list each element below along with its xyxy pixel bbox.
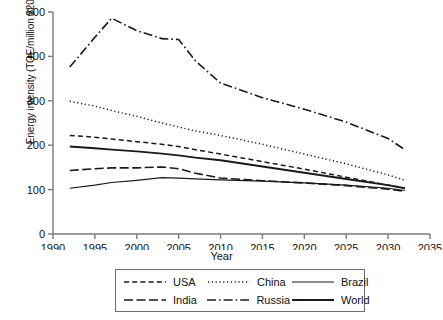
svg-text:300: 300: [27, 95, 45, 107]
legend-label-usa: USA: [168, 276, 196, 288]
legend-item-world[interactable]: World: [290, 294, 364, 306]
legend-item-usa[interactable]: USA: [116, 276, 206, 288]
svg-text:2025: 2025: [334, 242, 358, 250]
svg-text:400: 400: [27, 50, 45, 62]
legend-label-india: India: [168, 294, 197, 306]
svg-text:100: 100: [27, 184, 45, 196]
legend-item-brazil[interactable]: Brazil: [290, 276, 364, 288]
legend-swatch-china: [206, 277, 252, 287]
legend-label-russia: Russia: [251, 294, 290, 306]
svg-text:200: 200: [27, 139, 45, 151]
data-series-group: [70, 18, 405, 191]
legend-swatch-usa: [122, 277, 168, 287]
legend-label-china: China: [252, 276, 286, 288]
legend-label-world: World: [336, 294, 370, 306]
legend-swatch-russia: [205, 295, 251, 305]
legend-row-2: India Russia World: [116, 291, 364, 309]
svg-text:0: 0: [39, 228, 45, 240]
svg-text:2015: 2015: [250, 242, 274, 250]
legend-row-1: USA China Brazil: [116, 273, 364, 291]
plot-area: 0100200300400500199019952000200520102015…: [0, 0, 443, 250]
energy-intensity-chart: Energy intensity (TOE/million $2010 PPP)…: [0, 0, 443, 320]
svg-text:2005: 2005: [166, 242, 190, 250]
legend-swatch-world: [290, 295, 336, 305]
svg-text:1990: 1990: [41, 242, 65, 250]
legend-label-brazil: Brazil: [336, 276, 369, 288]
svg-text:2020: 2020: [292, 242, 316, 250]
legend-swatch-brazil: [290, 277, 336, 287]
svg-text:2035: 2035: [418, 242, 442, 250]
svg-text:1995: 1995: [83, 242, 107, 250]
svg-text:2030: 2030: [376, 242, 400, 250]
legend-item-china[interactable]: China: [206, 276, 290, 288]
legend: USA China Brazil India Russia World: [115, 269, 365, 312]
svg-text:2000: 2000: [125, 242, 149, 250]
legend-swatch-india: [122, 295, 168, 305]
legend-item-russia[interactable]: Russia: [205, 294, 290, 306]
x-axis-title: Year: [0, 250, 443, 262]
svg-text:2010: 2010: [208, 242, 232, 250]
axes: 0100200300400500199019952000200520102015…: [27, 6, 443, 250]
legend-item-india[interactable]: India: [116, 294, 205, 306]
svg-text:500: 500: [27, 6, 45, 18]
